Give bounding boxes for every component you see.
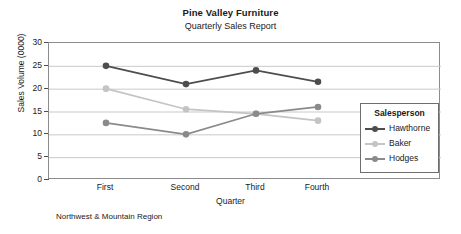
legend-marker-icon — [365, 124, 385, 133]
legend-item-hodges[interactable]: Hodges — [361, 151, 438, 166]
legend-title: Salesperson — [361, 108, 438, 118]
chart-footnote: Northwest & Mountain Region — [56, 212, 162, 221]
legend: Salesperson HawthorneBakerHodges — [360, 103, 439, 173]
x-tick-label: Fourth — [282, 183, 352, 192]
legend-item-label: Hodges — [389, 154, 418, 163]
legend-items: HawthorneBakerHodges — [361, 121, 438, 166]
legend-item-label: Baker — [389, 139, 411, 148]
legend-marker-icon — [365, 154, 385, 163]
legend-item-hawthorne[interactable]: Hawthorne — [361, 121, 438, 136]
legend-item-label: Hawthorne — [389, 124, 430, 133]
x-tick-label: First — [70, 183, 140, 192]
x-tick-label: Second — [150, 183, 220, 192]
x-axis-title: Quarter — [0, 196, 461, 206]
x-tick-label: Third — [220, 183, 290, 192]
legend-marker-icon — [365, 139, 385, 148]
legend-item-baker[interactable]: Baker — [361, 136, 438, 151]
